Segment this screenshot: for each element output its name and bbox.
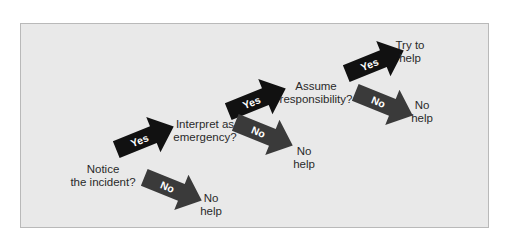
outcome-line: help: [396, 52, 425, 65]
question-assume-responsibility: Assume responsibility?: [280, 80, 353, 106]
outcome-line: help: [200, 205, 222, 218]
outcome-line: help: [411, 112, 433, 125]
question-line: Assume: [280, 80, 353, 93]
question-line: responsibility?: [280, 93, 353, 106]
question-line: the incident?: [70, 176, 135, 189]
outcome-no-help-3: No help: [411, 99, 433, 125]
question-notice-incident: Notice the incident?: [70, 163, 135, 189]
outcome-no-help-1: No help: [200, 192, 222, 218]
question-interpret-emergency: Interpret as emergency?: [173, 118, 236, 144]
outcome-line: No: [200, 192, 222, 205]
outcome-line: No: [411, 99, 433, 112]
outcome-line: help: [293, 158, 315, 171]
question-line: Interpret as: [173, 118, 236, 131]
outcome-no-help-2: No help: [293, 145, 315, 171]
question-line: emergency?: [173, 131, 236, 144]
outcome-try-to-help: Try to help: [396, 39, 425, 65]
outcome-line: No: [293, 145, 315, 158]
outcome-line: Try to: [396, 39, 425, 52]
